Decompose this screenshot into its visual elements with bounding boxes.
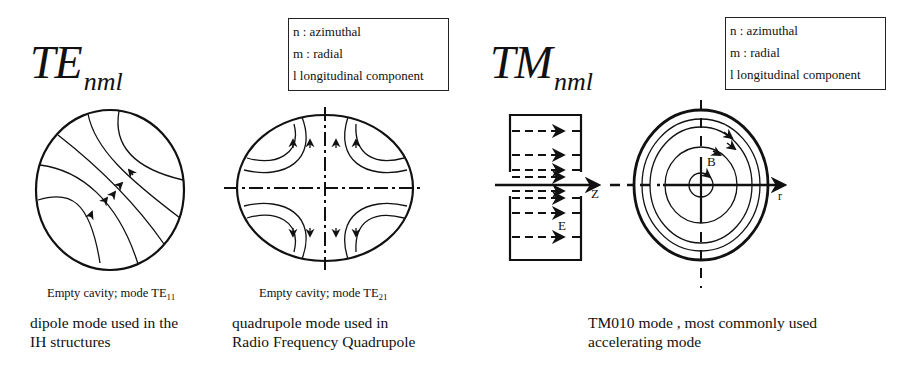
caption-subscript: 11	[167, 292, 176, 302]
description-line: quadrupole mode used in	[232, 313, 415, 332]
r-axis-label: r	[778, 189, 782, 203]
te21-caption: Empty cavity; mode TE21	[259, 286, 388, 302]
tm010-description: TM010 mode , most commonly used accelera…	[588, 313, 817, 351]
description-line: TM010 mode , most commonly used	[588, 313, 817, 332]
te11-dipole-diagram	[36, 110, 184, 270]
z-axis-label: Z	[591, 186, 599, 201]
description-line: dipole mode used in the	[30, 313, 178, 332]
description-line: Radio Frequency Quadrupole	[232, 332, 415, 351]
te11-caption: Empty cavity; mode TE11	[47, 286, 175, 302]
te11-description: dipole mode used in the IH structures	[30, 313, 178, 351]
b-field-label: B	[707, 154, 716, 169]
caption-subscript: 21	[379, 292, 388, 302]
tm010-side-view-diagram	[495, 115, 634, 260]
e-field-label: E	[558, 218, 566, 233]
description-line: IH structures	[30, 332, 178, 351]
description-line: accelerating mode	[588, 332, 817, 351]
caption-text: Empty cavity; mode TE	[47, 286, 167, 300]
te21-description: quadrupole mode used in Radio Frequency …	[232, 313, 415, 351]
te21-quadrupole-diagram	[224, 107, 424, 270]
tm010-cross-section-diagram	[634, 100, 784, 288]
caption-text: Empty cavity; mode TE	[259, 286, 379, 300]
